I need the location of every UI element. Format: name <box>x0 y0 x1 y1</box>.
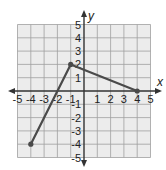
x-tick-label: -5 <box>13 93 23 105</box>
y-tick-label: -2 <box>71 112 81 124</box>
x-tick-label: -4 <box>26 93 36 105</box>
data-point-marker <box>135 88 140 93</box>
y-tick-label: 3 <box>75 45 81 57</box>
y-axis-down-arrow-icon <box>81 160 87 167</box>
y-tick-label: -5 <box>71 152 81 164</box>
y-tick-label: 5 <box>75 19 81 31</box>
data-point-marker <box>28 142 33 147</box>
y-tick-label: -4 <box>71 138 81 150</box>
y-tick-label: 4 <box>75 32 81 44</box>
y-axis-up-arrow-icon <box>81 10 87 17</box>
x-tick-label: -3 <box>39 93 49 105</box>
x-axis-label: x <box>156 75 164 89</box>
coordinate-plane: -5-4-3-2-11234554321-1-2-3-4-5 x y <box>0 0 166 170</box>
y-tick-label: -3 <box>71 125 81 137</box>
y-tick-label: -1 <box>71 98 81 110</box>
data-point-marker <box>68 62 73 67</box>
x-tick-label: 2 <box>108 93 114 105</box>
x-tick-label: 5 <box>147 93 153 105</box>
x-tick-label: 4 <box>134 93 140 105</box>
x-tick-label: 3 <box>121 93 127 105</box>
x-tick-label: 1 <box>94 93 100 105</box>
y-tick-label: 1 <box>75 72 81 84</box>
y-axis-label: y <box>87 9 95 23</box>
